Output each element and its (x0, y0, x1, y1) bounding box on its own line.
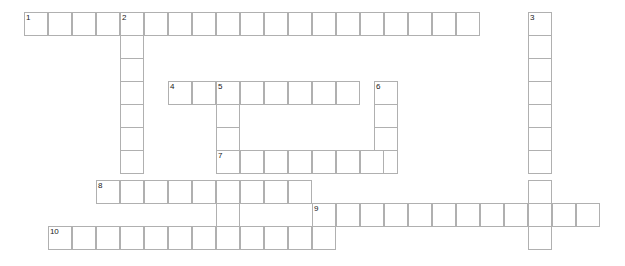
crossword-cell[interactable] (264, 150, 288, 174)
crossword-cell[interactable] (120, 81, 144, 105)
crossword-cell[interactable] (336, 81, 360, 105)
crossword-cell[interactable] (288, 226, 312, 250)
clue-number-9: 9 (314, 204, 318, 213)
crossword-cell[interactable] (240, 12, 264, 36)
crossword-cell[interactable] (528, 35, 552, 59)
crossword-cell-start-7[interactable]: 7 (216, 150, 240, 174)
crossword-cell[interactable] (384, 203, 408, 227)
clue-number-1: 1 (26, 13, 30, 22)
crossword-cell[interactable] (192, 180, 216, 204)
crossword-cell[interactable] (216, 226, 240, 250)
crossword-cell-start-2[interactable]: 2 (120, 12, 144, 36)
crossword-cell[interactable] (48, 12, 72, 36)
crossword-cell[interactable] (72, 226, 96, 250)
crossword-cell[interactable] (312, 150, 336, 174)
crossword-cell[interactable] (528, 81, 552, 105)
crossword-cell[interactable] (120, 58, 144, 82)
crossword-cell[interactable] (144, 180, 168, 204)
crossword-cell[interactable] (360, 150, 384, 174)
crossword-cell[interactable] (216, 180, 240, 204)
crossword-cell[interactable] (216, 127, 240, 151)
crossword-cell[interactable] (192, 81, 216, 105)
crossword-cell[interactable] (120, 104, 144, 128)
crossword-cell[interactable] (120, 150, 144, 174)
crossword-cell[interactable] (120, 35, 144, 59)
crossword-cell[interactable] (336, 12, 360, 36)
crossword-cell[interactable] (288, 81, 312, 105)
crossword-cell[interactable] (528, 150, 552, 174)
crossword-cell[interactable] (456, 203, 480, 227)
crossword-cell[interactable] (192, 12, 216, 36)
crossword-cell[interactable] (216, 104, 240, 128)
crossword-cell[interactable] (384, 12, 408, 36)
crossword-cell[interactable] (528, 58, 552, 82)
clue-number-10: 10 (50, 227, 58, 236)
crossword-cell[interactable] (240, 81, 264, 105)
crossword-cell[interactable] (408, 203, 432, 227)
clue-number-2: 2 (122, 13, 126, 22)
crossword-cell[interactable] (96, 12, 120, 36)
crossword-cell[interactable] (374, 127, 398, 151)
crossword-cell[interactable] (288, 150, 312, 174)
crossword-cell[interactable] (264, 12, 288, 36)
crossword-cell[interactable] (312, 226, 336, 250)
crossword-cell[interactable] (264, 226, 288, 250)
crossword-cell-start-6[interactable]: 6 (374, 81, 398, 105)
crossword-cell[interactable] (216, 203, 240, 227)
crossword-cell[interactable] (240, 150, 264, 174)
crossword-cell[interactable] (528, 127, 552, 151)
crossword-cell[interactable] (120, 127, 144, 151)
crossword-cell-start-4[interactable]: 4 (168, 81, 192, 105)
crossword-cell-start-10[interactable]: 10 (48, 226, 72, 250)
crossword-cell[interactable] (120, 180, 144, 204)
crossword-cell[interactable] (360, 203, 384, 227)
crossword-cell[interactable] (312, 12, 336, 36)
crossword-cell-start-1[interactable]: 1 (24, 12, 48, 36)
clue-number-4: 4 (170, 82, 174, 91)
crossword-cell[interactable] (96, 226, 120, 250)
crossword-cell[interactable] (168, 180, 192, 204)
clue-number-3: 3 (530, 13, 534, 22)
crossword-cell-start-3[interactable]: 3 (528, 12, 552, 36)
crossword-cell[interactable] (312, 81, 336, 105)
clue-number-8: 8 (98, 181, 102, 190)
crossword-cell[interactable] (528, 180, 552, 204)
crossword-cell[interactable] (168, 226, 192, 250)
crossword-cell[interactable] (360, 12, 384, 36)
crossword-cell[interactable] (144, 226, 168, 250)
crossword-cell[interactable] (336, 203, 360, 227)
crossword-cell-start-5[interactable]: 5 (216, 81, 240, 105)
crossword-cell[interactable] (336, 150, 360, 174)
crossword-cell[interactable] (120, 226, 144, 250)
crossword-cell[interactable] (374, 104, 398, 128)
crossword-cell[interactable] (288, 12, 312, 36)
crossword-cell[interactable] (504, 203, 528, 227)
crossword-cell[interactable] (192, 226, 216, 250)
crossword-cell[interactable] (264, 81, 288, 105)
crossword-cell[interactable] (528, 104, 552, 128)
crossword-cell[interactable] (456, 12, 480, 36)
crossword-cell[interactable] (432, 203, 456, 227)
clue-number-6: 6 (376, 82, 380, 91)
crossword-cell[interactable] (576, 203, 600, 227)
crossword-cell[interactable] (216, 12, 240, 36)
crossword-cell[interactable] (240, 180, 264, 204)
crossword-cell[interactable] (288, 180, 312, 204)
clue-number-7: 7 (218, 151, 222, 160)
crossword-cell[interactable] (528, 226, 552, 250)
crossword-cell-start-9[interactable]: 9 (312, 203, 336, 227)
clue-number-5: 5 (218, 82, 222, 91)
crossword-cell[interactable] (528, 203, 552, 227)
crossword-cell[interactable] (432, 12, 456, 36)
crossword-cell[interactable] (240, 226, 264, 250)
crossword-cell-start-8[interactable]: 8 (96, 180, 120, 204)
crossword-cell[interactable] (264, 180, 288, 204)
crossword-cell[interactable] (168, 12, 192, 36)
crossword-cell[interactable] (480, 203, 504, 227)
crossword-cell[interactable] (552, 203, 576, 227)
crossword-cell[interactable] (72, 12, 96, 36)
crossword-cell[interactable] (408, 12, 432, 36)
crossword-cell[interactable] (144, 12, 168, 36)
crossword-grid[interactable]: 12345768910 (0, 0, 625, 266)
